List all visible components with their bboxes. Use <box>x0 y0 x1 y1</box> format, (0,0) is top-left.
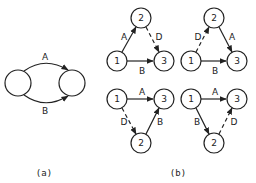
node-1-label: 1 <box>188 56 194 66</box>
edge-1-2-label: B <box>194 117 200 127</box>
node-2-label: 2 <box>138 13 144 23</box>
node-2-label: 2 <box>211 13 217 23</box>
panel-a: A B (a) <box>5 52 85 178</box>
edge-2-3-label: D <box>231 117 238 127</box>
caption-b: (b) <box>170 168 186 178</box>
panel-b-diagram-4: 1 3 2 A B D <box>181 87 247 153</box>
edge-1-2-label: D <box>195 32 202 42</box>
edge-1-3-label: B <box>212 66 218 76</box>
edge-a-label: A <box>42 52 49 62</box>
node-right <box>59 70 85 96</box>
edge-1-3-label: B <box>139 66 145 76</box>
edge-2-3-label: A <box>229 32 236 42</box>
panel-b-diagram-3: 1 3 2 A D B <box>107 87 174 153</box>
caption-a: (a) <box>36 168 52 178</box>
edge-1-3-label: A <box>212 87 219 97</box>
panel-b-diagram-2: 2 1 3 D A B <box>181 8 247 76</box>
node-2-label: 2 <box>138 138 144 148</box>
edge-1-2-label: D <box>121 117 128 127</box>
edge-b <box>24 95 68 103</box>
node-1-label: 1 <box>188 94 194 104</box>
edge-2-3-label: D <box>156 32 163 42</box>
figure: A B (a) 2 1 3 A D B 2 1 3 D A B <box>0 0 256 183</box>
edge-1-2-label: A <box>121 32 128 42</box>
node-3-label: 3 <box>234 94 240 104</box>
edge-b-label: B <box>42 106 48 116</box>
node-1-label: 1 <box>114 56 120 66</box>
node-3-label: 3 <box>161 94 167 104</box>
node-left <box>5 70 31 96</box>
edge-1-3-label: A <box>139 87 146 97</box>
panel-b-diagram-1: 2 1 3 A D B <box>107 8 174 76</box>
node-3-label: 3 <box>234 56 240 66</box>
node-1-label: 1 <box>114 94 120 104</box>
node-2-label: 2 <box>211 138 217 148</box>
node-3-label: 3 <box>161 56 167 66</box>
edge-2-3-label: B <box>157 117 163 127</box>
edge-a <box>24 63 68 71</box>
